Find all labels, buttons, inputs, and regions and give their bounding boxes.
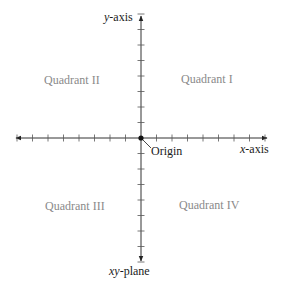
origin-label: Origin [151, 145, 182, 157]
quadrant-iii-label: Quadrant III [45, 200, 105, 212]
quadrant-ii-label: Quadrant II [44, 74, 100, 86]
y-axis-suffix: -axis [109, 10, 132, 24]
x-axis-suffix: -axis [245, 142, 268, 156]
plane-caption-variable: xy [109, 264, 120, 278]
plane-caption-suffix: -plane [120, 264, 150, 278]
x-axis-label: x-axis [240, 143, 269, 155]
plane-caption: xy-plane [109, 265, 150, 277]
origin-leader-line [143, 140, 151, 148]
y-axis-label: y-axis [104, 11, 133, 23]
quadrant-iv-label: Quadrant IV [179, 199, 239, 211]
quadrant-i-label: Quadrant I [181, 73, 233, 85]
origin-point [138, 135, 143, 140]
